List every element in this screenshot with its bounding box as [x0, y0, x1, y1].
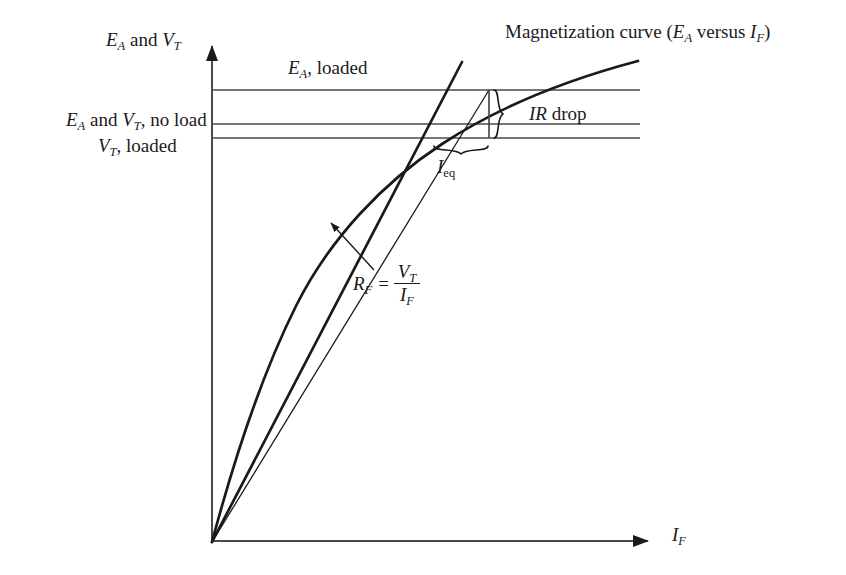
label-ir-drop: IR drop [529, 104, 587, 124]
label-ea-vt-no-load: EA and VT, no load [66, 110, 207, 130]
y-axis-label: EA and VT [106, 30, 181, 50]
x-axis-label: IF [672, 525, 686, 545]
label-i-eq: Ieq [437, 157, 455, 177]
magnetization-curve-figure: EA and VT IF Magnetization curve (EA ver… [0, 0, 846, 575]
label-ea-loaded: EA, loaded [288, 58, 367, 78]
label-vt-loaded: VT, loaded [98, 136, 177, 156]
plot-canvas [0, 0, 846, 575]
rf-fraction: VT IF [394, 262, 420, 305]
label-rf-equation: RF = VT IF [353, 262, 420, 305]
field-resistance-line [212, 62, 462, 542]
ieq-brace [434, 146, 488, 154]
magnetization-curve-label: Magnetization curve (EA versus IF) [505, 22, 770, 42]
